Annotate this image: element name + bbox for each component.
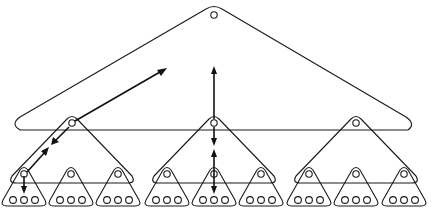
leaf-node	[126, 197, 133, 204]
leaf-parent-node	[353, 171, 359, 177]
arrowhead-center-up	[211, 66, 217, 74]
leaf-node	[175, 197, 182, 204]
mid-node-left	[69, 120, 75, 126]
leaf-node	[32, 197, 39, 204]
leaf-parent-node	[258, 171, 264, 177]
leaf-parent-node	[115, 171, 121, 177]
leaf-node	[164, 197, 171, 204]
leaf-parent-node	[306, 171, 312, 177]
arrowhead-left-leaf	[21, 186, 27, 194]
hierarchy-diagram: Hierarchical nested triangle tree	[0, 0, 432, 215]
leaf-triangle	[382, 168, 426, 207]
arrow-left-up	[75, 72, 160, 121]
leaf-triangle	[334, 168, 378, 207]
leaf-node	[247, 197, 254, 204]
leaf-parent-node	[164, 171, 170, 177]
leaf-node	[269, 197, 276, 204]
leaf-node	[10, 197, 17, 204]
leaf-triangle	[145, 168, 189, 207]
leaf-node	[222, 197, 229, 204]
leaf-triangle	[49, 168, 93, 207]
root-node	[211, 12, 217, 18]
leaf-node	[115, 197, 122, 204]
leaf-node	[68, 197, 75, 204]
leaf-node	[353, 197, 360, 204]
leaf-node	[153, 197, 160, 204]
leaf-parent-node	[401, 171, 407, 177]
leaf-node	[295, 197, 302, 204]
arrowhead-center-down-a	[211, 138, 217, 146]
leaf-triangle	[287, 168, 331, 207]
leaf-node	[317, 197, 324, 204]
leaf-node	[364, 197, 371, 204]
leaf-node	[57, 197, 64, 204]
leaf-parent-node	[68, 171, 74, 177]
leaf-triangle	[239, 168, 283, 207]
leaf-triangle	[96, 168, 140, 207]
mid-node-center	[211, 120, 217, 126]
leaf-node	[79, 197, 86, 204]
leaf-node	[211, 197, 218, 204]
leaf-node	[258, 197, 265, 204]
leaf-node	[104, 197, 111, 204]
leaf-node	[342, 197, 349, 204]
mid-node-right	[353, 120, 359, 126]
arrow-left-down-b	[27, 151, 46, 172]
leaf-node	[390, 197, 397, 204]
arrowhead-left-up	[157, 68, 167, 76]
leaf-node	[306, 197, 313, 204]
leaf-node	[401, 197, 408, 204]
arrowhead-center-leaf	[211, 186, 217, 194]
leaf-node	[200, 197, 207, 204]
leaf-node	[21, 197, 28, 204]
leaf-node	[412, 197, 419, 204]
